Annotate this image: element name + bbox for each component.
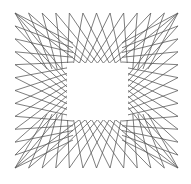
center-square	[67, 63, 128, 120]
string-art-pattern	[0, 0, 191, 184]
